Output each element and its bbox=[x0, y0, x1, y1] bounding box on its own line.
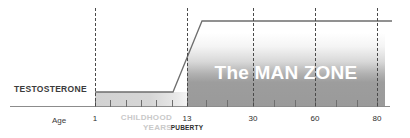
tick-label-30: 30 bbox=[249, 114, 258, 123]
x-axis-line bbox=[10, 106, 390, 107]
axis-tick bbox=[227, 100, 228, 107]
axis-tick bbox=[141, 100, 142, 107]
childhood-years-line-1: CHILDHOOD bbox=[100, 113, 172, 123]
guide-line-age-1 bbox=[95, 8, 96, 106]
testosterone-age-chart: The MAN ZONE TESTOSTERONE Age 1 13 30 60… bbox=[0, 0, 410, 138]
axis-tick bbox=[357, 100, 358, 107]
childhood-years-label: CHILDHOOD YEARS bbox=[100, 113, 172, 133]
guide-line-age-30 bbox=[253, 8, 254, 106]
tick-label-13: 13 bbox=[183, 114, 192, 123]
axis-tick bbox=[110, 100, 111, 107]
axis-tick bbox=[172, 100, 173, 107]
puberty-label: PUBERTY bbox=[171, 124, 203, 131]
axis-tick bbox=[206, 100, 207, 107]
tick-label-80: 80 bbox=[373, 114, 382, 123]
guide-line-age-60 bbox=[315, 8, 316, 106]
axis-tick bbox=[126, 100, 127, 107]
guide-line-age-13 bbox=[187, 8, 188, 106]
tick-label-1: 1 bbox=[93, 114, 97, 123]
x-axis-label: Age bbox=[52, 116, 66, 125]
y-axis-label: TESTOSTERONE bbox=[14, 84, 87, 94]
axis-tick bbox=[295, 100, 296, 107]
axis-tick bbox=[156, 100, 157, 107]
axis-tick bbox=[336, 100, 337, 107]
man-zone-label: The MAN ZONE bbox=[187, 62, 385, 84]
tick-label-60: 60 bbox=[311, 114, 320, 123]
childhood-years-line-2: YEARS bbox=[100, 123, 172, 133]
axis-tick bbox=[274, 100, 275, 107]
guide-line-age-80 bbox=[377, 8, 378, 106]
